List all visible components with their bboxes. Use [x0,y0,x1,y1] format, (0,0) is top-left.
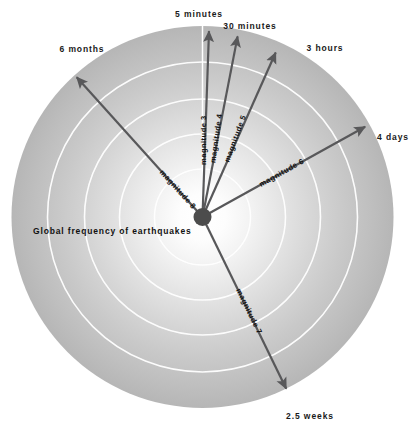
time-label-magnitude-3: 5 minutes [175,10,223,19]
time-label-magnitude-5: 3 hours [306,44,343,53]
time-label-magnitude-6: 4 days [377,133,409,142]
ray-label-magnitude-3: magnitude 3 [201,115,209,165]
time-label-magnitude-7: 2.5 weeks [286,412,334,421]
time-label-magnitude-4: 30 minutes [223,22,276,31]
time-label-magnitude-8: 6 months [60,45,105,54]
chart-caption: Global frequency of earthquakes [33,227,192,236]
radial-chart-canvas [0,0,420,437]
center-hub [194,208,212,226]
earthquake-frequency-infographic: Global frequency of earthquakes 5 minute… [0,0,420,437]
